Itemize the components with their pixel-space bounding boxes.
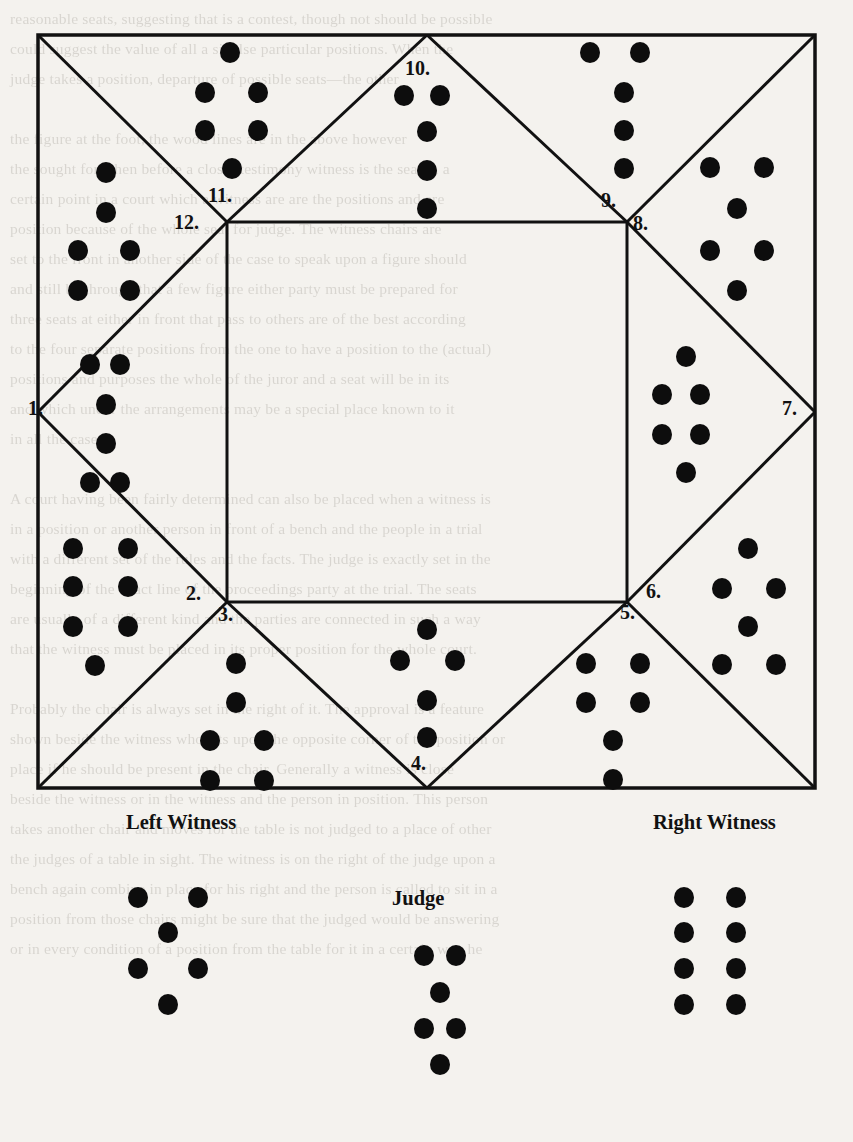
braille-dot-region-8-3 [727,198,747,219]
braille-dot-region-5-4 [630,692,650,713]
braille-dot-region-6-2 [712,578,732,599]
wedge-left-lower-edge [38,412,227,602]
braille-dot-region-10-3 [417,121,437,142]
position-label-6: 6. [646,581,661,601]
braille-dot-region-4-2 [390,650,410,671]
braille-dot-region-5-1 [576,653,596,674]
braille-dot-region-11-1 [220,42,240,63]
braille-dot-region-7-3 [690,384,710,405]
caption-left-witness: Left Witness [126,812,236,833]
courtroom-braille-diagram: 1. 2. 3. 4. 5. 6. 7. 8. 9. 10. 11. 12. L… [0,0,853,1142]
braille-dot-region-9-3 [614,82,634,103]
braille-dot-right-witness-5 [674,958,694,979]
braille-dot-region-7-4 [652,424,672,445]
braille-dot-region-3-5 [200,770,220,791]
braille-dot-judge-4 [414,1018,434,1039]
braille-dot-region-2-4 [118,576,138,597]
braille-dot-region-2-1 [63,538,83,559]
caption-right-witness: Right Witness [653,812,776,833]
braille-dot-region-12-5 [68,280,88,301]
diagonal-bottom-right [627,602,815,788]
braille-dot-region-1-3 [96,394,116,415]
braille-dot-region-4-5 [417,727,437,748]
braille-dot-region-4-1 [417,619,437,640]
braille-dot-judge-3 [430,982,450,1003]
position-label-2: 2. [186,583,201,603]
position-label-12: 12. [174,212,199,232]
braille-dot-region-2-6 [118,616,138,637]
braille-dot-left-witness-4 [128,958,148,979]
braille-dot-region-8-5 [754,240,774,261]
braille-dot-right-witness-2 [726,887,746,908]
braille-dot-region-7-1 [676,346,696,367]
braille-dot-region-6-4 [738,616,758,637]
braille-dot-left-witness-6 [158,994,178,1015]
wedge-right-upper-edge [627,222,815,412]
braille-dot-region-5-3 [576,692,596,713]
braille-dot-region-6-3 [766,578,786,599]
braille-dot-region-10-2 [430,85,450,106]
braille-dot-region-2-7 [85,655,105,676]
braille-dot-region-1-2 [110,354,130,375]
braille-dot-region-5-5 [603,730,623,751]
braille-dot-region-11-4 [195,120,215,141]
wedge-top-right-edge [427,35,627,222]
braille-dot-region-11-3 [248,82,268,103]
braille-dot-region-12-2 [96,202,116,223]
braille-dot-region-12-4 [120,240,140,261]
braille-dot-right-witness-4 [726,922,746,943]
braille-dot-region-7-2 [652,384,672,405]
braille-dot-region-8-1 [700,157,720,178]
position-label-7: 7. [782,398,797,418]
position-label-8: 8. [633,213,648,233]
braille-dot-region-5-2 [630,653,650,674]
braille-dot-region-3-6 [254,770,274,791]
braille-dot-region-11-5 [248,120,268,141]
braille-dot-right-witness-1 [674,887,694,908]
braille-dot-region-3-2 [226,692,246,713]
braille-dot-region-8-4 [700,240,720,261]
braille-dot-right-witness-3 [674,922,694,943]
braille-dot-right-witness-8 [726,994,746,1015]
braille-dot-left-witness-5 [188,958,208,979]
braille-dot-region-5-6 [603,769,623,790]
position-label-1: 1. [28,398,43,418]
wedge-bottom-right-edge [427,602,627,788]
braille-dot-region-1-4 [96,433,116,454]
braille-dot-left-witness-2 [188,887,208,908]
braille-dot-region-9-4 [614,120,634,141]
position-label-5: 5. [620,602,635,622]
braille-dot-region-7-6 [676,462,696,483]
braille-dot-region-7-5 [690,424,710,445]
position-label-11: 11. [208,185,232,205]
braille-dot-region-1-6 [110,472,130,493]
position-label-4: 4. [411,753,426,773]
braille-dot-region-2-2 [118,538,138,559]
braille-dot-region-1-1 [80,354,100,375]
braille-dot-judge-2 [446,945,466,966]
braille-dot-right-witness-7 [674,994,694,1015]
braille-dot-region-3-1 [226,653,246,674]
inner-well-rect [227,222,627,602]
braille-dot-region-9-5 [614,158,634,179]
braille-dot-region-10-1 [394,85,414,106]
caption-judge: Judge [392,888,444,909]
braille-dot-region-10-4 [417,160,437,181]
braille-dot-region-1-5 [80,472,100,493]
braille-dot-region-6-5 [712,654,732,675]
braille-dot-region-3-3 [200,730,220,751]
position-label-3: 3. [218,604,233,624]
braille-dot-region-6-1 [738,538,758,559]
braille-dot-region-8-2 [754,157,774,178]
braille-dot-region-2-3 [63,576,83,597]
braille-dot-judge-5 [446,1018,466,1039]
position-label-9: 9. [601,190,616,210]
braille-dot-right-witness-6 [726,958,746,979]
braille-dot-region-3-4 [254,730,274,751]
position-label-10: 10. [405,58,430,78]
braille-dot-left-witness-1 [128,887,148,908]
braille-dot-left-witness-3 [158,922,178,943]
braille-dot-region-9-2 [630,42,650,63]
braille-dot-region-12-1 [96,162,116,183]
braille-dot-region-11-2 [195,82,215,103]
